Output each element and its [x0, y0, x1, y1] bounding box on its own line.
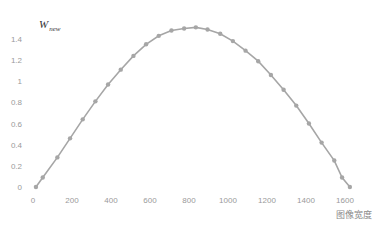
- y-tick-label: 1: [18, 77, 23, 86]
- y-tick-label: 1.4: [11, 35, 23, 44]
- data-point-marker: [332, 158, 336, 162]
- x-tick-label: 800: [182, 196, 196, 205]
- data-point-marker: [340, 175, 344, 179]
- data-point-marker: [131, 54, 135, 58]
- data-point-marker: [231, 39, 235, 43]
- y-tick-label: 0: [18, 183, 23, 192]
- data-point-marker: [205, 27, 209, 31]
- series-w-new: [34, 25, 352, 189]
- x-tick-label: 600: [143, 196, 157, 205]
- y-tick-label: 0.2: [11, 162, 23, 171]
- data-point-marker: [194, 25, 198, 29]
- data-point-marker: [281, 88, 285, 92]
- series-line: [36, 27, 350, 187]
- data-point-marker: [81, 117, 85, 121]
- line-chart: 00.20.40.60.811.21.4 0200400600800100012…: [0, 0, 377, 232]
- data-point-marker: [348, 185, 352, 189]
- data-point-marker: [106, 82, 110, 86]
- x-tick-label: 1600: [336, 196, 354, 205]
- x-tick-label: 200: [65, 196, 79, 205]
- data-point-marker: [218, 32, 222, 36]
- data-point-marker: [182, 26, 186, 30]
- y-axis-label: Wnew: [39, 18, 61, 33]
- data-point-marker: [144, 42, 148, 46]
- x-tick-label: 1400: [297, 196, 315, 205]
- data-point-marker: [307, 121, 311, 125]
- y-tick-label: 0.8: [11, 98, 23, 107]
- y-tick-label: 0.4: [11, 141, 23, 150]
- data-point-marker: [55, 155, 59, 159]
- y-axis-ticks: 00.20.40.60.811.21.4: [11, 35, 23, 192]
- data-point-marker: [34, 185, 38, 189]
- data-point-marker: [269, 73, 273, 77]
- data-point-marker: [93, 99, 97, 103]
- x-axis-ticks: 02004006008001000120014001600: [31, 196, 355, 205]
- y-tick-label: 1.2: [11, 56, 23, 65]
- data-point-marker: [41, 175, 45, 179]
- x-tick-label: 0: [31, 196, 36, 205]
- data-point-marker: [157, 34, 161, 38]
- data-point-marker: [319, 140, 323, 144]
- data-point-marker: [169, 28, 173, 32]
- data-point-marker: [119, 67, 123, 71]
- data-point-marker: [68, 136, 72, 140]
- y-tick-label: 0.6: [11, 120, 23, 129]
- x-tick-label: 1000: [219, 196, 237, 205]
- x-axis-label: 图像宽度: [336, 209, 372, 220]
- x-tick-label: 400: [104, 196, 118, 205]
- x-tick-label: 1200: [258, 196, 276, 205]
- data-point-marker: [294, 103, 298, 107]
- data-point-marker: [256, 59, 260, 63]
- data-point-marker: [243, 48, 247, 52]
